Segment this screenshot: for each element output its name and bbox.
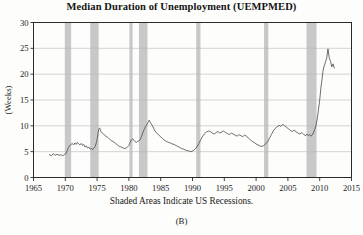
y-tick-label-15: 15 [20, 95, 29, 105]
x-tick-label-1970: 1970 [57, 183, 74, 193]
y-tick-label-20: 20 [20, 69, 29, 79]
x-axis-ticks-group: 1965197019751980198519901995200020052010… [25, 178, 360, 193]
y-tick-label-25: 25 [20, 43, 29, 53]
x-tick-label-2010: 2010 [311, 183, 328, 193]
x-tick-label-1975: 1975 [89, 183, 106, 193]
x-tick-label-1995: 1995 [216, 183, 233, 193]
gridlines-group [34, 48, 352, 151]
x-tick-label-1965: 1965 [25, 183, 42, 193]
x-tick-label-1985: 1985 [152, 183, 169, 193]
x-tick-label-2000: 2000 [248, 183, 265, 193]
x-tick-label-2015: 2015 [343, 183, 360, 193]
y-tick-label-5: 5 [24, 147, 28, 157]
y-tick-label-30: 30 [20, 18, 29, 28]
x-tick-label-1980: 1980 [120, 183, 137, 193]
y-axis-ticks-group: 051015202530 [20, 18, 34, 183]
recession-caption: Shaded Areas Indicate US Recessions. [0, 196, 363, 206]
x-tick-label-1990: 1990 [184, 183, 201, 193]
y-tick-label-10: 10 [20, 121, 29, 131]
figure-panel-b: Median Duration of Unemployment (UEMPMED… [0, 0, 363, 235]
x-tick-label-2005: 2005 [279, 183, 296, 193]
y-tick-label-0: 0 [24, 173, 28, 183]
panel-label: (B) [0, 216, 363, 226]
y-axis-title: (Weeks) [3, 85, 13, 114]
